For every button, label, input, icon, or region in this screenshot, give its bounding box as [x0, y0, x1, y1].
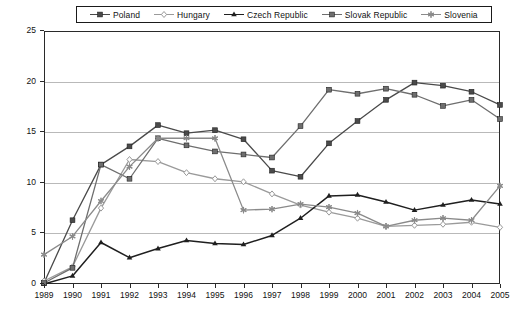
x-tick-mark	[101, 284, 102, 288]
legend-marker-icon	[322, 10, 342, 19]
y-tick-mark	[40, 131, 44, 132]
x-tick-mark	[301, 284, 302, 288]
legend-marker-icon	[154, 10, 174, 19]
legend-marker-icon	[421, 10, 441, 19]
y-tick-label: 5	[14, 227, 36, 237]
x-tick-mark	[44, 284, 45, 288]
y-tick-mark	[40, 232, 44, 233]
x-tick-mark	[272, 284, 273, 288]
line-chart: PolandHungaryCzech RepublicSlovak Republ…	[0, 0, 532, 315]
x-tick-mark	[386, 284, 387, 288]
chart-legend: PolandHungaryCzech RepublicSlovak Republ…	[76, 6, 492, 23]
legend-item-label: Slovenia	[444, 10, 477, 20]
x-tick-label: 2005	[480, 290, 520, 300]
x-tick-mark	[472, 284, 473, 288]
legend-item-label: Czech Republic	[247, 10, 308, 20]
gridline	[45, 132, 499, 133]
legend-item-poland[interactable]: Poland	[90, 10, 140, 20]
data-point-marker	[161, 12, 166, 18]
y-tick-label: 20	[14, 76, 36, 86]
x-tick-mark	[215, 284, 216, 288]
legend-marker-icon	[90, 10, 110, 19]
y-tick-label: 25	[14, 25, 36, 35]
data-point-marker	[329, 12, 334, 17]
legend-item-czech-republic[interactable]: Czech Republic	[224, 10, 308, 20]
x-tick-mark	[500, 284, 501, 288]
legend-item-slovak-republic[interactable]: Slovak Republic	[322, 10, 407, 20]
x-tick-mark	[130, 284, 131, 288]
legend-item-label: Poland	[113, 10, 140, 20]
x-tick-mark	[244, 284, 245, 288]
x-tick-mark	[358, 284, 359, 288]
data-point-marker	[98, 12, 103, 17]
legend-item-label: Slovak Republic	[345, 10, 407, 20]
gridline	[45, 82, 499, 83]
y-tick-mark	[40, 30, 44, 31]
legend-marker-icon	[224, 10, 244, 19]
x-tick-mark	[158, 284, 159, 288]
y-tick-label: 15	[14, 126, 36, 136]
x-tick-mark	[415, 284, 416, 288]
x-tick-mark	[443, 284, 444, 288]
x-tick-mark	[187, 284, 188, 288]
x-tick-mark	[329, 284, 330, 288]
y-tick-label: 0	[14, 278, 36, 288]
plot-area	[44, 31, 500, 284]
data-point-marker	[429, 11, 435, 17]
x-tick-mark	[73, 284, 74, 288]
gridline	[45, 183, 499, 184]
legend-item-label: Hungary	[177, 10, 210, 20]
y-tick-label: 10	[14, 177, 36, 187]
legend-item-hungary[interactable]: Hungary	[154, 10, 210, 20]
y-tick-mark	[40, 182, 44, 183]
legend-item-slovenia[interactable]: Slovenia	[421, 10, 477, 20]
gridline	[45, 233, 499, 234]
data-point-marker	[231, 11, 237, 16]
y-tick-mark	[40, 81, 44, 82]
